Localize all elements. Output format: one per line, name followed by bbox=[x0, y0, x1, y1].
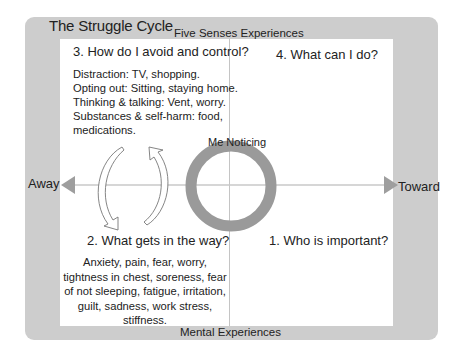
list-item: medications. bbox=[73, 123, 238, 137]
quadrant-1-title: 1. Who is important? bbox=[269, 233, 388, 248]
toward-label: Toward bbox=[398, 179, 440, 194]
quadrant-2-title: 2. What gets in the way? bbox=[87, 233, 229, 248]
list-item: Distraction: TV, shopping. bbox=[73, 67, 238, 81]
me-noticing-label: Me Noticing bbox=[208, 136, 266, 148]
away-arrow-icon bbox=[61, 176, 75, 194]
quadrant-3-title: 3. How do I avoid and control? bbox=[73, 44, 249, 59]
quadrant-3-list: Distraction: TV, shopping. Opting out: S… bbox=[73, 67, 238, 137]
list-item: Substances & self-harm: food, bbox=[73, 109, 238, 123]
quadrant-4-title: 4. What can I do? bbox=[276, 47, 378, 62]
list-item: Opting out: Sitting, staying home. bbox=[73, 81, 238, 95]
list-item: Thinking & talking: Vent, worry. bbox=[73, 95, 238, 109]
cycle-arrows-icon bbox=[98, 147, 168, 230]
quadrant-2-text: Anxiety, pain, fear, worry, tightness in… bbox=[62, 255, 228, 328]
toward-arrow-icon bbox=[384, 176, 398, 194]
bottom-axis-label: Mental Experiences bbox=[180, 326, 281, 338]
me-noticing-ring-icon bbox=[191, 146, 271, 226]
away-label: Away bbox=[28, 176, 60, 191]
